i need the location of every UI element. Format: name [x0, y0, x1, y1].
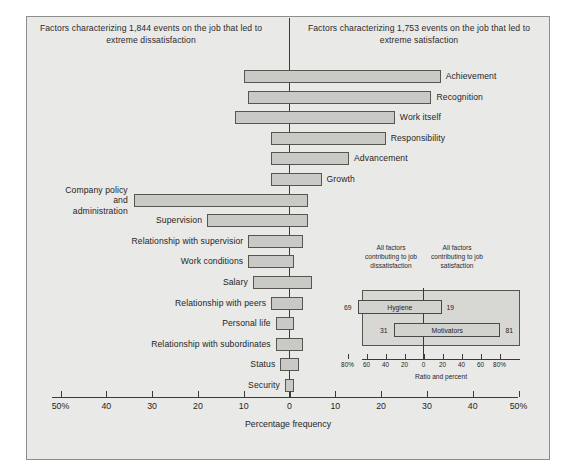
- x-tick: [519, 391, 520, 397]
- bar-personal-life: [276, 317, 294, 330]
- inset-tick: [348, 354, 349, 359]
- bar-supervision: [207, 214, 308, 227]
- inset-value-right: 19: [447, 304, 455, 311]
- bar-label: Advancement: [354, 153, 408, 163]
- inset-tick: [386, 354, 387, 359]
- bar-relationship-with-supervisior: [248, 235, 303, 248]
- bar-company-policy-and-administration: [134, 194, 308, 207]
- bar-row: Supervision: [0, 214, 576, 227]
- bar-row: Security: [0, 379, 576, 392]
- bar-advancement: [271, 152, 349, 165]
- x-axis-line: [52, 397, 518, 398]
- bar-label: Personal life: [71, 318, 271, 328]
- bar-achievement: [244, 70, 441, 83]
- bar-relationship-with-subordinates: [276, 338, 303, 351]
- bar-row: Advancement: [0, 152, 576, 165]
- inset-left-caption: All factors contributing to job dissatis…: [362, 243, 420, 270]
- x-tick-label: 30: [135, 401, 169, 411]
- x-tick-label: 40: [456, 401, 490, 411]
- bar-label: Supervision: [2, 215, 202, 225]
- right-header-caption: Factors characterizing 1,753 events on t…: [300, 22, 538, 47]
- inset-tick: [367, 354, 368, 359]
- bar-row: Work itself: [0, 111, 576, 124]
- bar-row: Company policy and administration: [0, 194, 576, 207]
- inset-value-left: 31: [380, 327, 388, 334]
- inset-bar-label: Hygiene: [382, 304, 418, 311]
- inset-panel: [362, 290, 520, 346]
- bar-label: Work conditions: [43, 256, 243, 266]
- bar-row: Relationship with supervisior: [0, 235, 576, 248]
- inset-tick-label: 80%: [489, 361, 511, 368]
- x-tick: [106, 391, 107, 397]
- x-tick: [198, 391, 199, 397]
- inset-value-right: 81: [505, 327, 513, 334]
- bar-label: Security: [80, 380, 280, 390]
- x-tick-label: 30: [410, 401, 444, 411]
- x-tick-label: 50%: [44, 401, 78, 411]
- bar-label: Status: [75, 359, 275, 369]
- bar-recognition: [248, 91, 431, 104]
- inset-tick: [481, 354, 482, 359]
- bar-responsibility: [271, 132, 386, 145]
- inset-axis-line: [362, 359, 520, 360]
- bar-label: Growth: [327, 174, 355, 184]
- bar-label: Work itself: [400, 112, 441, 122]
- bar-row: Recognition: [0, 91, 576, 104]
- inset-value-left: 69: [344, 304, 352, 311]
- bar-row: Achievement: [0, 70, 576, 83]
- bar-row: Salary: [0, 276, 576, 289]
- bar-label: Achievement: [446, 71, 497, 81]
- bar-row: Responsibility: [0, 132, 576, 145]
- x-tick: [61, 391, 62, 397]
- bar-label: Relationship with peers: [66, 298, 266, 308]
- bar-label: Relationship with supervisior: [43, 236, 243, 246]
- x-tick: [473, 391, 474, 397]
- x-tick-label: 20: [181, 401, 215, 411]
- x-tick: [290, 391, 291, 397]
- inset-tick: [405, 354, 406, 359]
- inset-tick: [424, 354, 425, 359]
- inset-tick: [462, 354, 463, 359]
- inset-tick: [500, 354, 501, 359]
- x-tick: [152, 391, 153, 397]
- bar-label: Company policy and administration: [62, 185, 128, 216]
- x-tick: [244, 391, 245, 397]
- bar-status: [280, 358, 298, 371]
- bar-label: Salary: [48, 277, 248, 287]
- inset-tick: [443, 354, 444, 359]
- x-tick-label: 0: [273, 401, 307, 411]
- x-tick-label: 50%: [502, 401, 536, 411]
- figure-canvas: Factors characterizing 1,844 events on t…: [0, 0, 576, 476]
- x-tick: [381, 391, 382, 397]
- x-tick-label: 10: [227, 401, 261, 411]
- inset-right-caption: All factors contributing to job satisfac…: [428, 243, 486, 270]
- bar-relationship-with-peers: [271, 297, 303, 310]
- x-tick: [427, 391, 428, 397]
- inset-bar-label: Motivators: [429, 327, 465, 334]
- x-tick: [335, 391, 336, 397]
- bar-work-itself: [235, 111, 395, 124]
- bar-salary: [253, 276, 313, 289]
- bar-label: Responsibility: [391, 133, 445, 143]
- left-header-caption: Factors characterizing 1,844 events on t…: [32, 22, 270, 47]
- inset-axis-title: Ratio and percent: [362, 373, 520, 380]
- bar-work-conditions: [248, 255, 294, 268]
- bar-growth: [271, 173, 321, 186]
- bar-label: Recognition: [436, 92, 483, 102]
- x-tick-label: 10: [318, 401, 352, 411]
- x-tick-label: 20: [364, 401, 398, 411]
- x-tick-label: 40: [89, 401, 123, 411]
- x-axis-title: Percentage frequency: [0, 419, 576, 429]
- bar-row: Work conditions: [0, 255, 576, 268]
- bar-label: Relationship with subordinates: [71, 339, 271, 349]
